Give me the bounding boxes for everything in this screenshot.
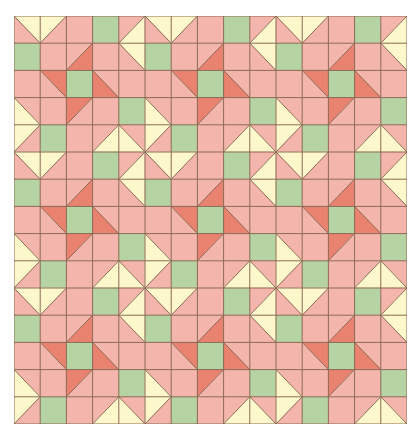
quilt-cell — [145, 342, 171, 369]
quilt-cell — [66, 315, 92, 342]
quilt-cell — [14, 179, 40, 206]
quilt-cell — [93, 70, 119, 97]
quilt-cell — [171, 179, 197, 206]
quilt-cell — [93, 206, 119, 233]
quilt-cell — [66, 152, 92, 179]
quilt-cell — [66, 206, 92, 233]
quilt-cell — [197, 98, 223, 125]
quilt-cell — [381, 43, 407, 70]
quilt-cell — [145, 16, 171, 43]
quilt-cell — [224, 397, 250, 424]
quilt-cell — [93, 397, 119, 424]
quilt-cell — [302, 98, 328, 125]
quilt-cell — [328, 179, 354, 206]
quilt-cell — [250, 70, 276, 97]
quilt-cell — [93, 152, 119, 179]
quilt-cell — [119, 16, 145, 43]
quilt-cell — [328, 234, 354, 261]
quilt-cell — [381, 70, 407, 97]
quilt-cell — [276, 397, 302, 424]
quilt-cell — [145, 370, 171, 397]
quilt-cell — [328, 315, 354, 342]
quilt-cell — [119, 125, 145, 152]
quilt-cell — [302, 234, 328, 261]
quilt-cell — [171, 98, 197, 125]
quilt-cell — [145, 261, 171, 288]
quilt-cell — [250, 234, 276, 261]
quilt-cell — [119, 179, 145, 206]
quilt-cell — [224, 206, 250, 233]
quilt-cell — [40, 43, 66, 70]
quilt-cell — [381, 98, 407, 125]
quilt-cell — [276, 342, 302, 369]
quilt-canvas — [14, 16, 407, 424]
quilt-cell — [381, 315, 407, 342]
quilt-cell — [171, 261, 197, 288]
quilt-cell — [197, 234, 223, 261]
quilt-cell — [355, 261, 381, 288]
quilt-cell — [197, 70, 223, 97]
quilt-cell — [171, 43, 197, 70]
quilt-cell — [66, 234, 92, 261]
quilt-cell — [66, 16, 92, 43]
quilt-cell — [66, 98, 92, 125]
quilt-cell — [145, 288, 171, 315]
quilt-cell — [40, 370, 66, 397]
quilt-cell — [302, 288, 328, 315]
quilt-cell — [197, 288, 223, 315]
quilt-cell — [250, 288, 276, 315]
quilt-cell — [171, 370, 197, 397]
quilt-cell — [224, 261, 250, 288]
quilt-cell — [197, 125, 223, 152]
quilt-cell — [93, 125, 119, 152]
quilt-cell — [224, 43, 250, 70]
quilt-cell — [302, 397, 328, 424]
quilt-cell — [328, 43, 354, 70]
quilt-cell — [224, 16, 250, 43]
quilt-cell — [40, 179, 66, 206]
quilt-cell — [224, 234, 250, 261]
quilt-cell — [93, 315, 119, 342]
quilt-cell — [40, 342, 66, 369]
quilt-cell — [224, 370, 250, 397]
quilt-cell — [145, 179, 171, 206]
quilt-cell — [355, 16, 381, 43]
quilt-cell — [93, 179, 119, 206]
quilt-cell — [276, 315, 302, 342]
quilt-cell — [14, 43, 40, 70]
quilt-cell — [40, 125, 66, 152]
quilt-cell — [250, 261, 276, 288]
quilt-cell — [250, 397, 276, 424]
quilt-cell — [355, 43, 381, 70]
quilt-cell — [119, 206, 145, 233]
quilt-cell — [119, 397, 145, 424]
quilt-cell — [224, 98, 250, 125]
quilt-cell — [14, 234, 40, 261]
quilt-cell — [93, 261, 119, 288]
quilt-cell — [250, 152, 276, 179]
quilt-cell — [197, 16, 223, 43]
quilt-cell — [40, 397, 66, 424]
quilt-cell — [119, 261, 145, 288]
quilt-cell — [14, 16, 40, 43]
quilt-cell — [40, 16, 66, 43]
quilt-cell — [93, 288, 119, 315]
quilt-cell — [276, 152, 302, 179]
quilt-cell — [197, 179, 223, 206]
quilt-cell — [250, 98, 276, 125]
quilt-cell — [145, 315, 171, 342]
quilt-cell — [381, 397, 407, 424]
quilt-cell — [14, 397, 40, 424]
quilt-cell — [381, 288, 407, 315]
quilt-cell — [224, 179, 250, 206]
quilt-cell — [224, 315, 250, 342]
quilt-cell — [250, 342, 276, 369]
quilt-cell — [381, 370, 407, 397]
quilt-cell — [40, 206, 66, 233]
quilt-cell — [171, 234, 197, 261]
quilt-cell — [381, 125, 407, 152]
quilt-cell — [276, 261, 302, 288]
quilt-cell — [171, 125, 197, 152]
quilt-cell — [171, 315, 197, 342]
quilt-cell — [14, 206, 40, 233]
